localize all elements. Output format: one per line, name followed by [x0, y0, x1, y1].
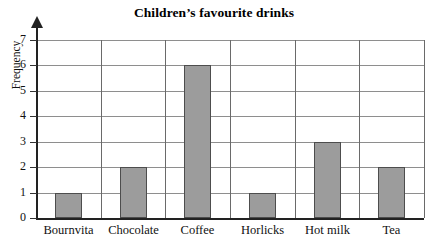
gridline-vertical — [359, 40, 360, 218]
y-tick-mark — [30, 167, 37, 168]
bar-chocolate — [120, 167, 147, 218]
y-tick-mark — [30, 193, 37, 194]
bar-hot-milk — [314, 142, 341, 218]
y-tick-mark — [30, 40, 37, 41]
y-tick-mark — [30, 65, 37, 66]
gridline-vertical — [295, 40, 296, 218]
gridline-vertical — [165, 40, 166, 218]
x-tick-label-coffee: Coffee — [165, 223, 230, 238]
x-tick-label-tea: Tea — [359, 223, 424, 238]
y-tick-label: 0 — [10, 211, 26, 223]
y-tick-label: 1 — [10, 186, 26, 198]
y-tick-label: 4 — [10, 109, 26, 121]
gridline-vertical — [424, 40, 425, 218]
y-tick-label: 2 — [10, 160, 26, 172]
x-axis-line — [36, 218, 424, 220]
bar-chart: Children’s favourite drinks Frequency 01… — [0, 0, 428, 243]
y-tick-label: 6 — [10, 58, 26, 70]
x-tick-label-hot-milk: Hot milk — [295, 223, 360, 238]
chart-title: Children’s favourite drinks — [0, 5, 428, 21]
bar-tea — [378, 167, 405, 218]
y-tick-label: 7 — [10, 33, 26, 45]
x-tick-label-chocolate: Chocolate — [101, 223, 166, 238]
y-tick-mark — [30, 91, 37, 92]
bar-coffee — [184, 65, 211, 218]
x-tick-label-bournvita: Bournvita — [36, 223, 101, 238]
gridline-vertical — [101, 40, 102, 218]
gridline-vertical — [230, 40, 231, 218]
y-tick-label: 5 — [10, 84, 26, 96]
bar-horlicks — [249, 193, 276, 218]
bar-bournvita — [55, 193, 82, 218]
y-tick-mark — [30, 116, 37, 117]
plot-area — [36, 40, 424, 218]
y-tick-mark — [30, 218, 37, 219]
y-axis-line — [36, 26, 38, 219]
x-tick-label-horlicks: Horlicks — [230, 223, 295, 238]
y-tick-label: 3 — [10, 135, 26, 147]
y-tick-mark — [30, 142, 37, 143]
